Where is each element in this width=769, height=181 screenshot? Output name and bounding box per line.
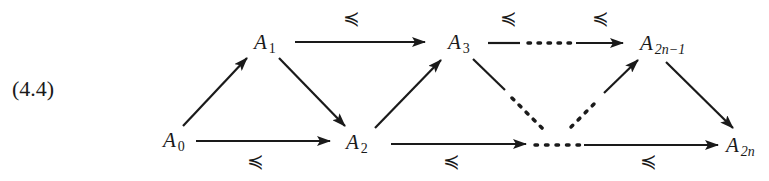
edge-a3-mid-solid [473,59,505,90]
arrow-mid-a2n-1 [604,60,638,93]
arrow-a1-a2 [279,58,345,126]
edge-a3-mid-dots [512,98,545,131]
arrow-a2n-1-a2n [666,62,733,128]
diagram-arrows [0,0,769,181]
edge-mid-a2n-1-dots [571,100,598,127]
arrow-a2-a3 [375,60,441,128]
arrow-a0-a1 [183,58,247,126]
